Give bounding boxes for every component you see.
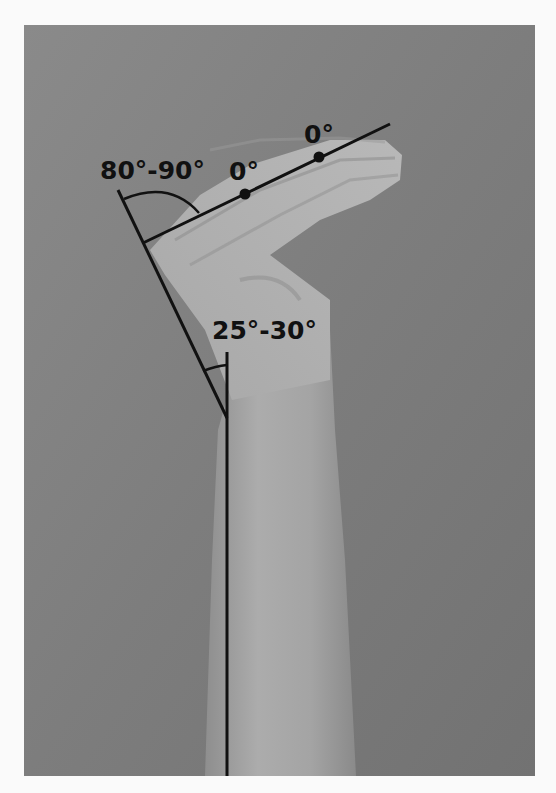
pip-joint-dot	[240, 189, 251, 200]
mcp-angle-label: 80°-90°	[100, 156, 205, 185]
pip-angle-label: 0°	[229, 157, 259, 186]
dip-angle-label: 0°	[304, 120, 334, 149]
wrist-angle-label: 25°-30°	[212, 316, 317, 345]
dip-joint-dot	[314, 152, 325, 163]
range-of-motion-figure: 80°-90° 0° 0° 25°-30°	[0, 0, 556, 793]
